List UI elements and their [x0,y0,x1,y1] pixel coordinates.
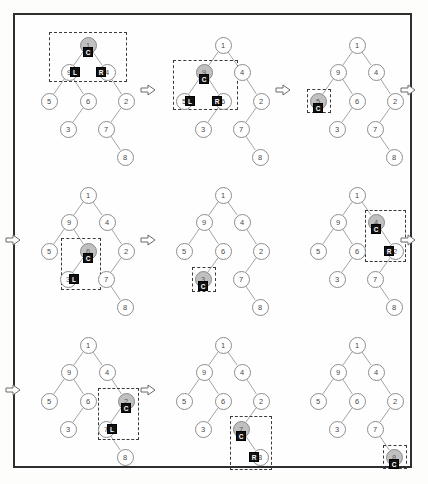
tree-node-1: 1 [80,337,97,354]
step-arrow-icon [5,233,21,247]
tree-node-6: 6 [349,393,366,410]
tree-node-8: 8 [117,149,134,166]
badge-left: L [69,274,79,284]
tree-node-7: 7 [367,121,384,138]
badge-right: R [249,452,259,462]
tree-node-4: 4 [368,364,385,381]
tree-node-9: 9 [61,214,78,231]
tree-step-3: 194562378C [289,22,424,174]
tree-node-2: 2 [387,393,404,410]
tree-node-7: 7 [233,271,250,288]
tree-node-5: 5 [310,393,327,410]
tree-node-3: 3 [329,421,346,438]
badge-right: R [96,67,106,77]
tree-step-6: 194562378CR [289,172,424,324]
tree-node-1: 1 [215,37,232,54]
tree-node-6: 6 [215,243,232,260]
tree-node-5: 5 [310,243,327,260]
tree-node-3: 3 [60,421,77,438]
tree-node-6: 6 [80,393,97,410]
badge-current: C [121,403,131,413]
tree-node-8: 8 [252,149,269,166]
tree-node-1: 1 [349,337,366,354]
step-arrow-icon [400,233,416,247]
tree-node-7: 7 [367,421,384,438]
tree-node-5: 5 [41,393,58,410]
tree-step-7: 194562378CL [20,322,155,474]
tree-node-3: 3 [329,121,346,138]
badge-current: C [83,47,93,57]
badge-current: C [83,253,93,263]
tree-node-1: 1 [80,187,97,204]
tree-step-1: 194562378CLR [20,22,155,174]
tree-node-7: 7 [367,271,384,288]
tree-node-9: 9 [196,214,213,231]
tree-node-3: 3 [60,121,77,138]
badge-right: R [212,96,222,106]
badge-current: C [313,103,323,113]
step-arrow-icon [140,233,156,247]
tree-node-6: 6 [80,93,97,110]
tree-node-7: 7 [233,121,250,138]
badge-left: L [70,67,80,77]
step-arrow-icon [140,383,156,397]
badge-current: C [389,459,399,469]
tree-node-8: 8 [386,149,403,166]
badge-current: C [198,281,208,291]
badge-right: R [384,246,394,256]
step-arrow-icon [275,83,291,97]
tree-node-5: 5 [41,93,58,110]
tree-node-3: 3 [195,421,212,438]
tree-node-7: 7 [98,271,115,288]
badge-left: L [185,96,195,106]
tree-node-4: 4 [368,64,385,81]
badge-current: C [236,431,246,441]
step-arrow-icon [140,83,156,97]
tree-node-5: 5 [176,243,193,260]
tree-node-9: 9 [61,364,78,381]
badge-left: L [107,424,117,434]
tree-step-8: 194562378CR [155,322,290,474]
tree-node-2: 2 [118,93,135,110]
tree-node-2: 2 [253,93,270,110]
tree-node-2: 2 [118,243,135,260]
step-arrow-icon [400,83,416,97]
tree-node-4: 4 [234,214,251,231]
step-arrow-icon [5,383,21,397]
tree-node-6: 6 [215,393,232,410]
tree-node-4: 4 [234,364,251,381]
tree-node-9: 9 [330,364,347,381]
tree-node-1: 1 [215,187,232,204]
tree-step-5: 194562378C [155,172,290,324]
tree-step-2: 194562378CLR [155,22,290,174]
tree-node-8: 8 [117,449,134,466]
tree-step-4: 194562378CL [20,172,155,324]
tree-node-3: 3 [329,271,346,288]
tree-node-9: 9 [330,214,347,231]
tree-node-3: 3 [195,121,212,138]
badge-current: C [371,224,381,234]
tree-node-6: 6 [349,93,366,110]
tree-node-1: 1 [349,187,366,204]
badge-current: C [199,74,209,84]
tree-node-1: 1 [215,337,232,354]
tree-node-6: 6 [349,243,366,260]
tree-node-8: 8 [117,299,134,316]
tree-node-8: 8 [252,299,269,316]
tree-node-9: 9 [196,364,213,381]
tree-node-9: 9 [330,64,347,81]
tree-node-2: 2 [253,393,270,410]
figure-canvas: 194562378CLR194562378CLR194562378C194562… [0,0,428,484]
tree-node-4: 4 [234,64,251,81]
tree-node-1: 1 [349,37,366,54]
tree-node-8: 8 [386,299,403,316]
tree-node-5: 5 [176,393,193,410]
tree-node-7: 7 [98,121,115,138]
tree-step-9: 194562378C [289,322,424,474]
tree-node-4: 4 [99,364,116,381]
tree-node-5: 5 [41,243,58,260]
tree-node-2: 2 [253,243,270,260]
tree-node-4: 4 [99,214,116,231]
